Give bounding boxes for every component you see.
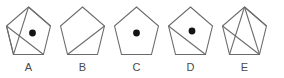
center-dot-marker xyxy=(189,28,196,35)
pentagon-figure-e: E xyxy=(218,0,271,78)
center-dot-marker xyxy=(133,30,140,37)
pentagon-figure-d: D xyxy=(164,0,217,78)
pentagon-drawing-e xyxy=(218,2,271,59)
figure-label-e: E xyxy=(218,58,271,76)
pentagon-drawing-b xyxy=(56,2,109,59)
figure-label-a: A xyxy=(2,58,55,76)
pentagon-drawing-d xyxy=(164,2,217,59)
pentagon-drawing-c xyxy=(110,2,163,59)
pentagon-figure-c: C xyxy=(110,0,163,78)
figure-label-b: B xyxy=(56,58,109,76)
pentagon-figure-row: ABCDE xyxy=(0,0,284,78)
figure-label-d: D xyxy=(164,58,217,76)
pentagon-figure-b: B xyxy=(56,0,109,78)
figure-label-c: C xyxy=(110,58,163,76)
pentagon-drawing-a xyxy=(2,2,55,59)
center-dot-marker xyxy=(29,30,36,37)
pentagon-figure-a: A xyxy=(2,0,55,78)
